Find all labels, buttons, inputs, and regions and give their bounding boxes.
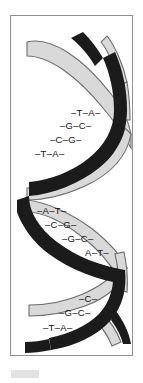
base-pair-row: A–T– (85, 248, 109, 258)
caption-block (11, 370, 39, 378)
base-pair-row: –G–C– (60, 121, 92, 131)
base-pair-rungs: –T–A– –G–C– –C–G– –T–A– –A–T– –C–G– –G–C… (11, 16, 132, 355)
base-pair-row: –A–T– (37, 206, 67, 216)
dna-figure: –T–A– –G–C– –C–G– –T–A– –A–T– –C–G– –G–C… (0, 0, 143, 383)
base-pair-row: –G–C– (59, 308, 91, 318)
base-pair-row: –C–G– (45, 220, 77, 230)
base-pair-row: –C– (79, 294, 97, 304)
base-pair-row: –T–A– (35, 149, 65, 159)
base-pair-row: –C–G– (50, 135, 82, 145)
base-pair-row: –T–A– (71, 108, 101, 118)
base-pair-row: –T–A– (43, 323, 73, 333)
base-pair-row: –G–C– (62, 234, 94, 244)
figure-frame: –T–A– –G–C– –C–G– –T–A– –A–T– –C–G– –G–C… (10, 15, 133, 356)
